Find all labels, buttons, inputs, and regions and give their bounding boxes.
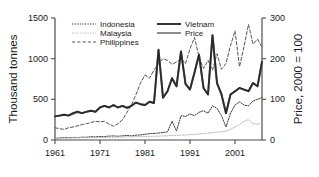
legend-label-philippines: Philippines bbox=[100, 38, 139, 47]
legend-label-indonesia: Indonesia bbox=[100, 20, 135, 29]
legend-label-vietnam: Vietnam bbox=[185, 20, 215, 29]
y2tick-label-100: 100 bbox=[270, 94, 285, 104]
ytick-label-1500: 1500 bbox=[28, 13, 48, 23]
y2tick-label-300: 300 bbox=[270, 13, 285, 23]
y2tick-label-0: 0 bbox=[270, 135, 275, 145]
ytick-label-500: 500 bbox=[33, 94, 48, 104]
production-price-line-chart: 0 500 1000 1500 0 100 200 300 1961 1971 … bbox=[0, 0, 319, 177]
xtick-label-1961: 1961 bbox=[45, 148, 65, 158]
x-axis-ticks bbox=[55, 140, 235, 144]
xtick-label-2001: 2001 bbox=[225, 148, 245, 158]
legend-label-price: Price bbox=[185, 29, 204, 38]
ytick-label-1000: 1000 bbox=[28, 54, 48, 64]
plot-background bbox=[55, 18, 262, 140]
chart-figure: 0 500 1000 1500 0 100 200 300 1961 1971 … bbox=[0, 0, 319, 177]
xtick-label-1991: 1991 bbox=[180, 148, 200, 158]
y2-axis-title: Price, 2000 = 100 bbox=[292, 34, 304, 124]
legend-label-malaysia: Malaysia bbox=[100, 29, 132, 38]
ytick-label-0: 0 bbox=[43, 135, 48, 145]
y-axis-title: Thousand tonnes bbox=[7, 34, 19, 123]
y2tick-label-200: 200 bbox=[270, 54, 285, 64]
xtick-label-1981: 1981 bbox=[135, 148, 155, 158]
xtick-label-1971: 1971 bbox=[90, 148, 110, 158]
